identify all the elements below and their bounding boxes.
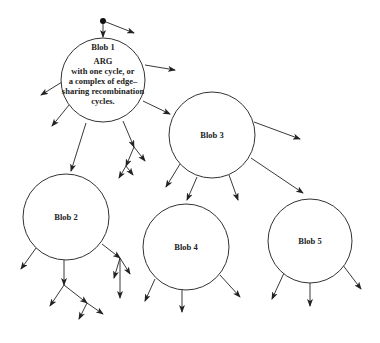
- blob2-node: Blob 2: [23, 174, 109, 260]
- blob3-label: Blob 3: [200, 130, 223, 140]
- edge-arrow: [166, 164, 180, 187]
- edge-arrow: [21, 248, 36, 269]
- edge-arrow: [41, 82, 62, 95]
- edge-arrow: [143, 101, 170, 114]
- diagram-canvas: Blob 1ARGwith one cycle, ora complex of …: [0, 0, 380, 343]
- root-node-dot: [100, 18, 106, 24]
- edge-arrow: [102, 244, 120, 258]
- blob1-node: Blob 1ARGwith one cycle, ora complex of …: [61, 38, 145, 122]
- edge-arrow: [134, 147, 145, 161]
- blob5-node: Blob 5: [268, 199, 352, 283]
- edge-arrow: [254, 122, 300, 139]
- blob1-label: Blob 1: [91, 42, 114, 52]
- blob1-description-line: with one cycle, or: [71, 66, 134, 76]
- edge-arrow: [106, 22, 134, 33]
- edge-arrow: [342, 264, 361, 289]
- edge-arrow: [123, 121, 134, 147]
- blobs-layer: Blob 1ARGwith one cycle, ora complex of …: [23, 38, 352, 290]
- edge-arrow: [220, 275, 240, 297]
- edge-arrow: [79, 303, 87, 319]
- edge-arrow: [187, 177, 197, 200]
- edge-arrow: [64, 285, 87, 303]
- blob5-label: Blob 5: [298, 236, 321, 246]
- blob4-node: Blob 4: [143, 204, 229, 290]
- edge-arrow: [145, 65, 175, 70]
- blob3-node: Blob 3: [169, 92, 255, 178]
- blob2-label: Blob 2: [54, 212, 77, 222]
- edge-arrow: [272, 273, 284, 299]
- edge-arrow: [120, 258, 130, 274]
- edge-arrow: [52, 105, 69, 126]
- edge-arrow: [126, 147, 134, 166]
- edge-arrow: [145, 279, 155, 301]
- edge-arrow: [50, 285, 64, 306]
- edge-arrow: [87, 303, 103, 314]
- edge-arrow: [229, 175, 238, 200]
- blob1-description-line: cycles.: [91, 96, 114, 106]
- blob4-label: Blob 4: [174, 242, 198, 252]
- blob1-description-line: sharing recombination: [62, 86, 145, 96]
- edge-arrow: [71, 123, 86, 171]
- edge-arrow: [251, 158, 303, 193]
- edge-arrow: [126, 166, 133, 175]
- tree-of-blobs-diagram: Blob 1ARGwith one cycle, ora complex of …: [0, 0, 380, 343]
- edge-arrow: [119, 166, 126, 178]
- blob1-description-line: ARG: [94, 56, 113, 66]
- edge-arrow: [114, 258, 120, 278]
- blob1-description-line: a complex of edge–: [69, 76, 138, 86]
